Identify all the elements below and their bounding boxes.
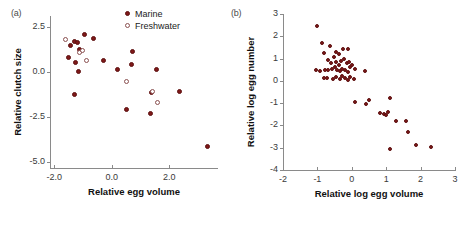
x-axis-title-b: Relative log egg volume: [283, 188, 455, 199]
data-point: [388, 147, 392, 151]
data-point: [320, 41, 324, 45]
data-point: [124, 107, 129, 112]
y-axis-line: [283, 14, 284, 170]
y-axis-tick-label: 0.0: [17, 66, 45, 76]
y-axis-title-a: Relative clutch size: [12, 16, 23, 168]
x-axis-tick-label: -2: [268, 174, 298, 184]
data-point: [68, 43, 73, 48]
y-axis-tick: [280, 36, 284, 37]
x-axis-tick: [54, 165, 55, 169]
plot-area-b: [283, 14, 455, 170]
x-axis-tick: [386, 167, 387, 171]
data-point: [66, 55, 71, 60]
x-axis-tick-label: 1: [371, 174, 401, 184]
x-axis-tick-label: 2.0: [154, 172, 184, 182]
data-point: [414, 143, 418, 147]
x-axis-tick: [421, 167, 422, 171]
data-point: [429, 145, 433, 149]
data-point: [388, 96, 392, 100]
data-point: [325, 76, 329, 80]
y-axis-tick-label: -2.5: [17, 111, 45, 121]
data-point: [130, 49, 135, 54]
y-axis-tick-label: 2: [250, 30, 278, 40]
data-point: [148, 111, 153, 116]
y-axis-tick-label: 2.5: [17, 21, 45, 31]
data-point: [82, 32, 87, 37]
data-point: [363, 69, 367, 73]
data-point: [404, 119, 408, 123]
x-axis-tick: [352, 167, 353, 171]
data-point: [353, 67, 357, 71]
data-point: [63, 37, 68, 42]
data-point: [91, 36, 96, 41]
data-point: [315, 24, 319, 28]
x-axis-tick-label: -1: [302, 174, 332, 184]
data-point: [129, 62, 134, 67]
data-point: [76, 69, 81, 74]
y-axis-tick: [280, 81, 284, 82]
panel-a: (a) Marine Freshwater Relative clutch si…: [0, 0, 236, 227]
data-point: [352, 77, 356, 81]
y-axis-tick-label: -2: [250, 119, 278, 129]
data-point: [367, 98, 371, 102]
y-axis-tick-label: 3: [250, 8, 278, 18]
x-axis-tick-label: -2.0: [39, 172, 69, 182]
data-point: [318, 69, 322, 73]
data-point: [150, 89, 155, 94]
plot-area-a: [50, 16, 218, 168]
data-point: [314, 68, 318, 72]
y-axis-tick: [280, 103, 284, 104]
y-axis-tick-label: -1: [250, 97, 278, 107]
data-point: [337, 52, 341, 56]
x-axis-title-a: Relative egg volume: [50, 186, 218, 197]
data-point: [378, 111, 382, 115]
data-point: [84, 58, 89, 63]
panel-b-label: (b): [231, 8, 241, 18]
x-axis-tick-label: 0: [337, 174, 367, 184]
data-point: [101, 58, 106, 63]
x-axis-tick: [169, 165, 170, 169]
x-axis-tick: [317, 167, 318, 171]
y-axis-tick: [47, 162, 51, 163]
data-point: [406, 130, 410, 134]
y-axis-tick: [47, 72, 51, 73]
data-point: [115, 67, 120, 72]
data-point: [328, 44, 332, 48]
y-axis-tick: [47, 27, 51, 28]
data-point: [350, 63, 354, 67]
y-axis-tick: [280, 59, 284, 60]
y-axis-tick: [280, 148, 284, 149]
y-axis-tick-label: 0: [250, 75, 278, 85]
data-point: [154, 67, 159, 72]
y-axis-tick-label: -5.0: [17, 156, 45, 166]
data-point: [342, 57, 346, 61]
x-axis-line: [283, 170, 455, 171]
y-axis-tick: [280, 125, 284, 126]
data-point: [72, 92, 77, 97]
x-axis-tick-label: 2: [406, 174, 436, 184]
data-point: [346, 70, 350, 74]
data-point: [73, 60, 78, 65]
panel-b: (b) Relative log egg number Relative log…: [235, 0, 471, 227]
data-point: [177, 89, 182, 94]
y-axis-line: [50, 16, 51, 168]
two-panel-scatter-figure: (a) Marine Freshwater Relative clutch si…: [0, 0, 471, 227]
data-point: [341, 47, 345, 51]
data-point: [205, 144, 210, 149]
x-axis-tick-label: 0.0: [97, 172, 127, 182]
x-axis-tick: [455, 167, 456, 171]
y-axis-tick: [47, 117, 51, 118]
data-point: [124, 79, 129, 84]
data-point: [332, 55, 336, 59]
data-point: [80, 48, 85, 53]
data-point: [155, 100, 160, 105]
data-point: [346, 47, 350, 51]
x-axis-tick-label: 3: [440, 174, 470, 184]
y-axis-tick-label: -3: [250, 142, 278, 152]
y-axis-tick: [280, 14, 284, 15]
data-point: [353, 100, 357, 104]
x-axis-line: [50, 168, 218, 169]
data-point: [75, 40, 80, 45]
x-axis-tick: [283, 167, 284, 171]
data-point: [337, 63, 341, 67]
